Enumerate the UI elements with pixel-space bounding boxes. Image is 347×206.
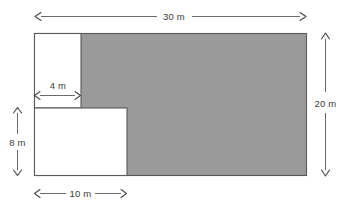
dimension-left-top-arrowhead (14, 108, 22, 114)
dimension-right-20m: 20 m (315, 33, 337, 176)
geometry-figure: 30 m 20 m 4 m 8 (0, 0, 347, 206)
dimension-bottom-10m: 10 m (35, 188, 127, 199)
upper-left-white-rectangle-body (35, 34, 82, 109)
dimension-top-left-arrowhead (35, 13, 41, 21)
dimension-top-30m: 30 m (35, 11, 306, 22)
dimension-right-bottom-arrowhead (322, 170, 330, 176)
dimension-inner-label: 4 m (50, 80, 66, 91)
dimension-bottom-label: 10 m (70, 188, 92, 199)
dimension-left-label: 8 m (9, 137, 25, 148)
dimension-top-label: 30 m (163, 11, 185, 22)
dimension-right-label: 20 m (315, 98, 337, 109)
diagram-canvas: 30 m 20 m 4 m 8 (0, 0, 347, 206)
lower-left-white-rectangle (35, 108, 128, 176)
dimension-top-right-arrowhead (300, 13, 306, 21)
dimension-bottom-right-arrowhead (121, 190, 127, 198)
lower-left-white-rectangle-body (35, 108, 128, 176)
dimension-left-bottom-arrowhead (14, 170, 22, 176)
dimension-bottom-left-arrowhead (35, 190, 41, 198)
dimension-left-8m: 8 m (9, 108, 25, 176)
upper-left-white-rectangle (35, 34, 82, 109)
dimension-right-top-arrowhead (322, 33, 330, 39)
